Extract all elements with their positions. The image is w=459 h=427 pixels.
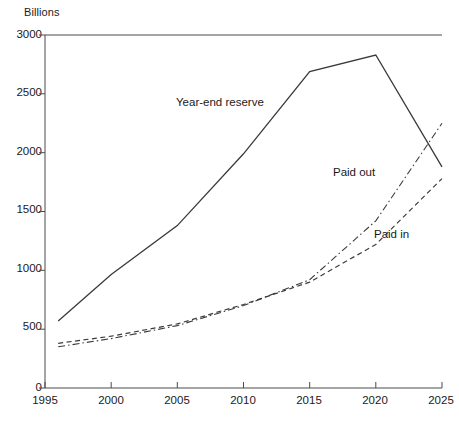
chart-canvas [0, 0, 459, 427]
series-line-paid-out [58, 123, 442, 346]
y-axis-ticks [39, 35, 45, 388]
line-chart: Billions 3000 2500 2000 1500 1000 500 0 … [0, 0, 459, 427]
series-line-paid-in [58, 179, 442, 344]
data-series-group [58, 55, 442, 347]
axis-frame [45, 35, 442, 388]
series-line-year-end-reserve [58, 55, 442, 321]
plot-frame-border [45, 35, 442, 388]
x-axis-ticks [45, 382, 442, 388]
